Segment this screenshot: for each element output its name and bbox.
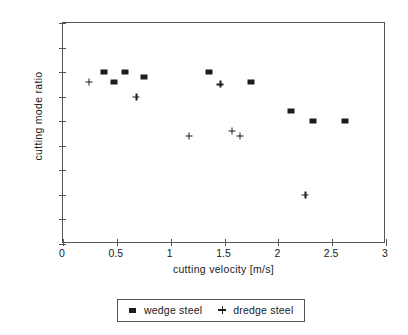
x-tick-label: 2 bbox=[274, 248, 280, 259]
x-tick-mark bbox=[386, 242, 387, 246]
data-points-layer bbox=[63, 23, 384, 242]
legend-plus-icon bbox=[218, 306, 226, 314]
data-point-square bbox=[140, 75, 147, 80]
data-point-square bbox=[309, 119, 316, 124]
data-point-plus bbox=[229, 128, 236, 135]
y-axis-title: cutting mode ratio bbox=[32, 16, 44, 216]
scatter-chart-figure: 0.650.70.750.80.850.90.9511.051.1 cuttin… bbox=[0, 0, 408, 335]
data-point-square bbox=[100, 70, 107, 75]
data-point-square bbox=[206, 70, 213, 75]
chart-legend: wedge steeldredge steel bbox=[117, 299, 305, 322]
data-point-plus bbox=[302, 191, 309, 198]
x-tick-mark bbox=[63, 242, 64, 246]
x-tick-mark bbox=[171, 242, 172, 246]
plot-area bbox=[62, 22, 385, 243]
x-tick-label: 2.5 bbox=[324, 248, 339, 259]
data-point-plus bbox=[236, 132, 243, 139]
data-point-plus bbox=[185, 132, 192, 139]
data-point-square bbox=[248, 79, 255, 84]
x-tick-mark bbox=[117, 242, 118, 246]
data-point-plus bbox=[133, 93, 140, 100]
x-tick-mark-inner bbox=[386, 239, 387, 242]
x-tick-mark bbox=[332, 242, 333, 246]
x-tick-mark bbox=[278, 242, 279, 246]
data-point-plus bbox=[85, 78, 92, 85]
data-point-square bbox=[342, 119, 349, 124]
data-point-square bbox=[288, 109, 295, 114]
x-tick-label: 0 bbox=[59, 248, 65, 259]
x-tick-label: 3 bbox=[382, 248, 388, 259]
legend-entry-0: wedge steel bbox=[129, 304, 202, 316]
data-point-square bbox=[110, 79, 117, 84]
x-axis-title: cutting velocity [m/s] bbox=[62, 263, 385, 275]
x-tick-label: 1.5 bbox=[216, 248, 231, 259]
legend-entry-1: dredge steel bbox=[218, 304, 293, 316]
data-point-plus bbox=[217, 81, 224, 88]
legend-square-icon bbox=[129, 306, 137, 314]
legend-label: wedge steel bbox=[144, 304, 202, 316]
x-tick-label: 0.5 bbox=[109, 248, 124, 259]
x-tick-label: 1 bbox=[167, 248, 173, 259]
x-tick-mark bbox=[225, 242, 226, 246]
data-point-square bbox=[122, 70, 129, 75]
legend-label: dredge steel bbox=[233, 304, 293, 316]
